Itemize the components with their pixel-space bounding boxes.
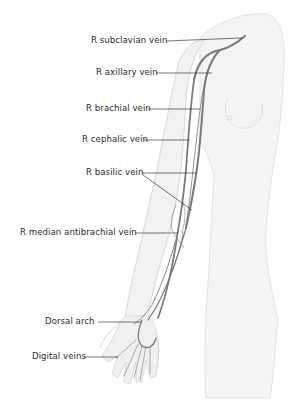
label-brachial-vein: R brachial vein <box>86 103 151 113</box>
label-median-antibrachial-vein: R median antibrachial vein <box>20 227 137 237</box>
torso-silhouette <box>200 14 284 398</box>
label-axillary-vein: R axillary vein <box>96 67 158 77</box>
label-subclavian-vein: R subclavian vein <box>91 35 167 45</box>
anatomy-illustration <box>0 0 290 411</box>
vein-diagram: R subclavian vein R axillary vein R brac… <box>0 0 290 411</box>
label-dorsal-arch: Dorsal arch <box>45 316 95 326</box>
label-cephalic-vein: R cephalic vein <box>82 134 148 144</box>
label-digital-veins: Digital veins <box>32 351 86 361</box>
label-basilic-vein: R basilic vein <box>86 167 143 177</box>
